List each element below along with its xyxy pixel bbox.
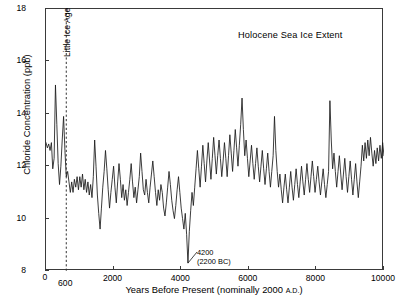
x-tick-label-10000: 10000 bbox=[371, 273, 395, 283]
y-tick-label-14: 14 bbox=[16, 108, 26, 118]
x-tick-mark-0 bbox=[45, 266, 46, 270]
little-ice-age-label: Little Ice Age bbox=[62, 0, 72, 57]
x-tick-label-0: 0 bbox=[43, 272, 48, 282]
x-tick-label-8000: 8000 bbox=[306, 273, 325, 283]
plot-svg bbox=[46, 9, 384, 271]
x-axis-label-main: Years Before Present (nominally 2000 bbox=[125, 284, 285, 295]
event-4200-bc: (2200 BC) bbox=[197, 258, 231, 267]
x-axis-label-era: A.D. bbox=[286, 287, 300, 295]
y-tick-mark-10 bbox=[45, 218, 49, 219]
y-tick-mark-14 bbox=[45, 113, 49, 114]
plot-area bbox=[45, 8, 383, 270]
y-tick-mark-12 bbox=[45, 165, 49, 166]
event-4200-leader-line bbox=[188, 252, 198, 264]
y-tick-label-12: 12 bbox=[16, 160, 26, 170]
x-tick-label-6000: 6000 bbox=[238, 273, 257, 283]
x-tick-mark-10000 bbox=[383, 266, 384, 270]
x-tick-mark-2000 bbox=[113, 266, 114, 270]
x-axis-label: Years Before Present (nominally 2000 A.D… bbox=[45, 284, 383, 295]
event-4200-annotation: 4200 (2200 BC) bbox=[197, 249, 231, 266]
y-tick-mark-18 bbox=[45, 8, 49, 9]
y-tick-label-18: 18 bbox=[16, 3, 26, 13]
chart-title: Holocene Sea Ice Extent bbox=[238, 30, 343, 40]
x-tick-mark-6000 bbox=[248, 266, 249, 270]
x-tick-label-4000: 4000 bbox=[171, 273, 190, 283]
y-tick-mark-16 bbox=[45, 60, 49, 61]
y-tick-mark-8 bbox=[45, 270, 49, 271]
y-tick-label-10: 10 bbox=[16, 213, 26, 223]
x-tick-mark-8000 bbox=[315, 266, 316, 270]
x-tick-label-600: 600 bbox=[58, 278, 72, 288]
chloride-concentration-line bbox=[46, 85, 384, 263]
y-tick-label-8: 8 bbox=[21, 265, 26, 275]
x-tick-mark-4000 bbox=[180, 266, 181, 270]
x-tick-label-2000: 2000 bbox=[103, 273, 122, 283]
chart-figure: Holocene Sea Ice Extent Chloride Concent… bbox=[0, 0, 410, 305]
y-tick-label-16: 16 bbox=[16, 55, 26, 65]
x-axis-label-tail: ) bbox=[299, 284, 302, 295]
